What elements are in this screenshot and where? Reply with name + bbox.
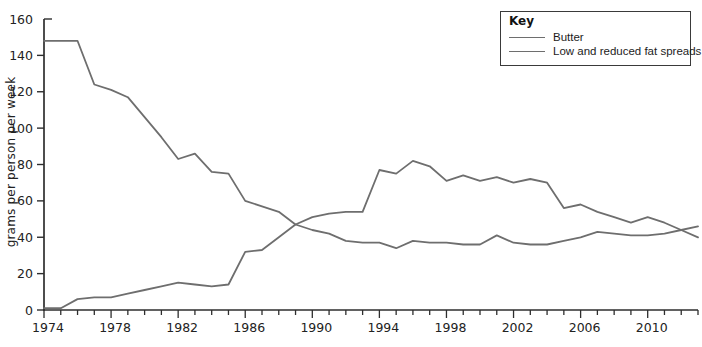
y-tick-label: 120 <box>9 84 33 99</box>
butter-line <box>44 41 698 248</box>
y-tick-label: 80 <box>17 157 33 172</box>
x-tick-label: 2006 <box>569 320 601 335</box>
y-tick-label: 0 <box>25 303 33 318</box>
x-tick-label: 1982 <box>166 320 198 335</box>
y-tick-label: 20 <box>17 266 33 281</box>
x-tick-label: 1986 <box>233 320 265 335</box>
line-chart-figure: grams per person per week 02040608010012… <box>0 0 702 347</box>
x-tick-label: 1998 <box>435 320 467 335</box>
x-tick-label: 2010 <box>636 320 668 335</box>
y-tick-label: 140 <box>9 48 33 63</box>
low-and-reduced-fat-spreads-line <box>44 161 698 308</box>
legend-box: Key Butter Low and reduced fat spreads <box>500 11 691 66</box>
legend-label-butter: Butter <box>553 31 584 43</box>
x-tick-label: 1994 <box>367 320 399 335</box>
y-tick-label: 160 <box>9 12 33 27</box>
x-tick-label: 1990 <box>300 320 332 335</box>
legend-entry-spreads: Low and reduced fat spreads <box>509 45 686 57</box>
x-tick-label: 1974 <box>32 320 64 335</box>
x-tick-label: 1978 <box>99 320 131 335</box>
legend-label-spreads: Low and reduced fat spreads <box>553 45 701 57</box>
y-tick-label: 60 <box>17 193 33 208</box>
x-tick-label: 2002 <box>502 320 534 335</box>
spreads-line-swatch <box>509 51 545 52</box>
y-tick-label: 40 <box>17 230 33 245</box>
butter-line-swatch <box>509 37 545 38</box>
y-tick-label: 100 <box>9 121 33 136</box>
legend-title: Key <box>509 14 686 29</box>
legend-entry-butter: Butter <box>509 31 686 43</box>
